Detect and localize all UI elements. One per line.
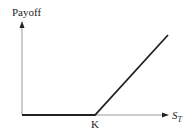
y-axis-label: Payoff xyxy=(12,6,41,18)
x-axis-label-subscript: T xyxy=(178,115,183,124)
x-axis-arrow-icon xyxy=(162,113,169,118)
x-axis-label: ST xyxy=(172,109,183,124)
payoff-line xyxy=(22,35,168,115)
payoff-diagram: Payoff K ST xyxy=(0,0,196,134)
y-axis-arrow-icon xyxy=(20,21,25,28)
strike-label: K xyxy=(91,118,99,130)
